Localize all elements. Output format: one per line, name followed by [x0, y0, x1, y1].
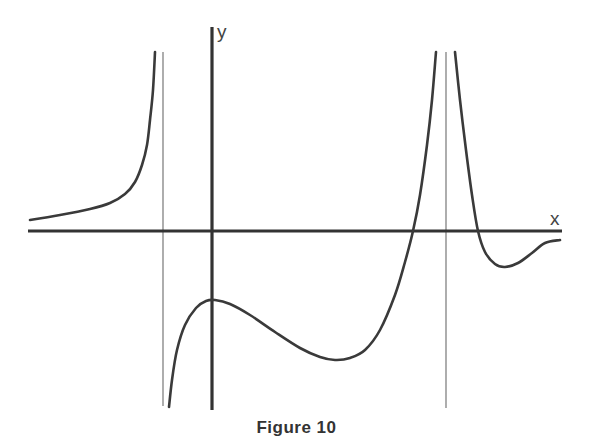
curve-right-branch — [455, 52, 560, 267]
figure-caption: Figure 10 — [0, 418, 593, 438]
x-axis-label: x — [550, 208, 560, 229]
y-axis-label: y — [217, 21, 227, 42]
curve-left-branch — [30, 52, 155, 220]
function-graph: y x — [0, 0, 593, 447]
